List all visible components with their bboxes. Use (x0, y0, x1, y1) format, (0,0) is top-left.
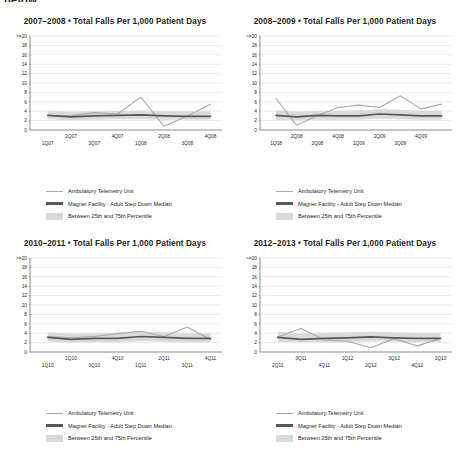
plot-area-0: 024681012141618>=201Q072Q073Q074Q071Q082… (0, 30, 230, 165)
legend-label: Magnet Facility - Adult Step Down Median (298, 423, 402, 429)
legend-swatch-thin-line-icon (276, 187, 293, 196)
y-tick-label: 6 (254, 322, 257, 327)
legend-swatch-thick-line-icon (276, 199, 293, 208)
y-tick-label: 2 (24, 340, 27, 345)
cut-off-header-text: below... (4, 0, 47, 2)
y-tick-label: 10 (22, 303, 28, 308)
y-tick-label: 16 (22, 275, 28, 280)
legend-label: Magnet Facility - Adult Step Down Median (68, 423, 172, 429)
y-tick-label: 16 (252, 275, 258, 280)
x-tick-label: 1Q13 (435, 356, 447, 361)
y-tick-label: >=20 (16, 34, 27, 39)
x-tick-label: 4Q11 (205, 356, 217, 361)
y-tick-label: 10 (252, 81, 258, 86)
legend-label: Ambulatory Telemetry Unit (68, 410, 134, 416)
y-tick-label: 0 (24, 128, 27, 133)
y-tick-label: 8 (254, 90, 257, 95)
x-tick-label: 2Q08 (291, 134, 303, 139)
y-tick-label: 14 (252, 284, 258, 289)
chart-title-0: 2007–2008 • Total Falls Per 1,000 Patien… (0, 17, 230, 26)
y-tick-label: 4 (24, 109, 27, 114)
x-tick-label: 4Q11 (319, 363, 331, 368)
y-tick-label: 12 (252, 293, 258, 298)
y-tick-label: 10 (252, 303, 258, 308)
y-tick-label: 2 (24, 118, 27, 123)
y-tick-label: 16 (22, 53, 28, 58)
chart-panel-1: 2008–2009 • Total Falls Per 1,000 Patien… (230, 8, 460, 230)
x-tick-label: 2Q11 (272, 363, 284, 368)
y-tick-label: 18 (252, 265, 258, 270)
y-tick-label: 14 (252, 62, 258, 67)
x-tick-label: 4Q10 (112, 356, 124, 361)
chart-panel-0: 2007–2008 • Total Falls Per 1,000 Patien… (0, 8, 230, 230)
x-tick-label: 2Q11 (158, 356, 170, 361)
chart-svg-2: 024681012141618>=201Q102Q103Q104Q101Q112… (0, 252, 230, 387)
legend-swatch-band-icon (46, 212, 63, 221)
x-tick-label: 2Q10 (65, 356, 77, 361)
legend-label: Ambulatory Telemetry Unit (298, 188, 364, 194)
plot-area-1: 024681012141618>=201Q082Q083Q084Q081Q092… (230, 30, 460, 165)
legend-swatch-band-icon (276, 212, 293, 221)
chart-svg-1: 024681012141618>=201Q082Q083Q084Q081Q092… (230, 30, 460, 165)
x-tick-label: 2Q08 (158, 134, 170, 139)
x-tick-label: 3Q07 (88, 141, 100, 146)
x-tick-label: 3Q12 (388, 356, 400, 361)
x-tick-label: 3Q11 (182, 363, 194, 368)
x-tick-label: 3Q10 (88, 363, 100, 368)
y-tick-label: 4 (254, 331, 257, 336)
y-tick-label: 0 (254, 350, 257, 355)
legend-item-percentile-band: Between 25th and 75th Percentile (276, 211, 460, 221)
x-tick-label: 2Q09 (374, 134, 386, 139)
y-tick-label: 0 (254, 128, 257, 133)
chart-svg-0: 024681012141618>=201Q072Q073Q074Q071Q082… (0, 30, 230, 165)
legend-item-percentile-band: Between 25th and 75th Percentile (46, 211, 230, 221)
y-tick-label: 12 (22, 71, 28, 76)
y-tick-label: 4 (24, 331, 27, 336)
y-tick-label: 18 (22, 43, 28, 48)
x-tick-label: 3Q08 (181, 141, 193, 146)
legend-item-magnet-facility-median: Magnet Facility - Adult Step Down Median (46, 199, 230, 209)
legend-item-magnet-facility-median: Magnet Facility - Adult Step Down Median (276, 199, 460, 209)
y-tick-label: 8 (24, 312, 27, 317)
chart-title-1: 2008–2009 • Total Falls Per 1,000 Patien… (230, 17, 460, 26)
y-tick-label: 16 (252, 53, 258, 58)
legend-item-ambulatory-telemetry-unit: Ambulatory Telemetry Unit (46, 186, 230, 196)
y-tick-label: 6 (254, 100, 257, 105)
legend-swatch-thin-line-icon (46, 187, 63, 196)
y-tick-label: 6 (24, 322, 27, 327)
legend-item-magnet-facility-median: Magnet Facility - Adult Step Down Median (276, 421, 460, 431)
x-tick-label: 4Q08 (332, 134, 344, 139)
y-tick-label: 4 (254, 109, 257, 114)
x-tick-label: 1Q07 (42, 141, 54, 146)
legend-item-magnet-facility-median: Magnet Facility - Adult Step Down Median (46, 421, 230, 431)
x-tick-label: 1Q09 (353, 141, 365, 146)
x-tick-label: 1Q08 (135, 141, 147, 146)
legend-label: Between 25th and 75th Percentile (298, 435, 382, 441)
legend-label: Ambulatory Telemetry Unit (298, 410, 364, 416)
legend-2: Ambulatory Telemetry Unit Magnet Facilit… (46, 408, 230, 446)
y-tick-label: 8 (24, 90, 27, 95)
chart-panel-2: 2010–2011 • Total Falls Per 1,000 Patien… (0, 230, 230, 452)
legend-swatch-thick-line-icon (276, 421, 293, 430)
y-tick-label: >=20 (16, 256, 27, 261)
x-tick-label: 4Q12 (411, 363, 423, 368)
y-tick-label: 12 (22, 293, 28, 298)
legend-swatch-thick-line-icon (46, 199, 63, 208)
legend-0: Ambulatory Telemetry Unit Magnet Facilit… (46, 186, 230, 224)
plot-area-3: 024681012141618>=202Q113Q114Q111Q122Q123… (230, 252, 460, 387)
legend-item-ambulatory-telemetry-unit: Ambulatory Telemetry Unit (276, 408, 460, 418)
legend-swatch-thin-line-icon (276, 409, 293, 418)
y-tick-label: 14 (22, 62, 28, 67)
y-tick-label: 2 (254, 118, 257, 123)
legend-1: Ambulatory Telemetry Unit Magnet Facilit… (276, 186, 460, 224)
legend-swatch-band-icon (46, 434, 63, 443)
legend-3: Ambulatory Telemetry Unit Magnet Facilit… (276, 408, 460, 446)
legend-label: Magnet Facility - Adult Step Down Median (298, 201, 402, 207)
chart-title-2: 2010–2011 • Total Falls Per 1,000 Patien… (0, 239, 230, 248)
x-tick-label: 1Q10 (42, 363, 54, 368)
y-tick-label: 14 (22, 284, 28, 289)
x-tick-label: 4Q07 (112, 134, 124, 139)
x-tick-label: 4Q09 (415, 134, 427, 139)
legend-item-percentile-band: Between 25th and 75th Percentile (276, 433, 460, 443)
y-tick-label: >=20 (246, 34, 257, 39)
